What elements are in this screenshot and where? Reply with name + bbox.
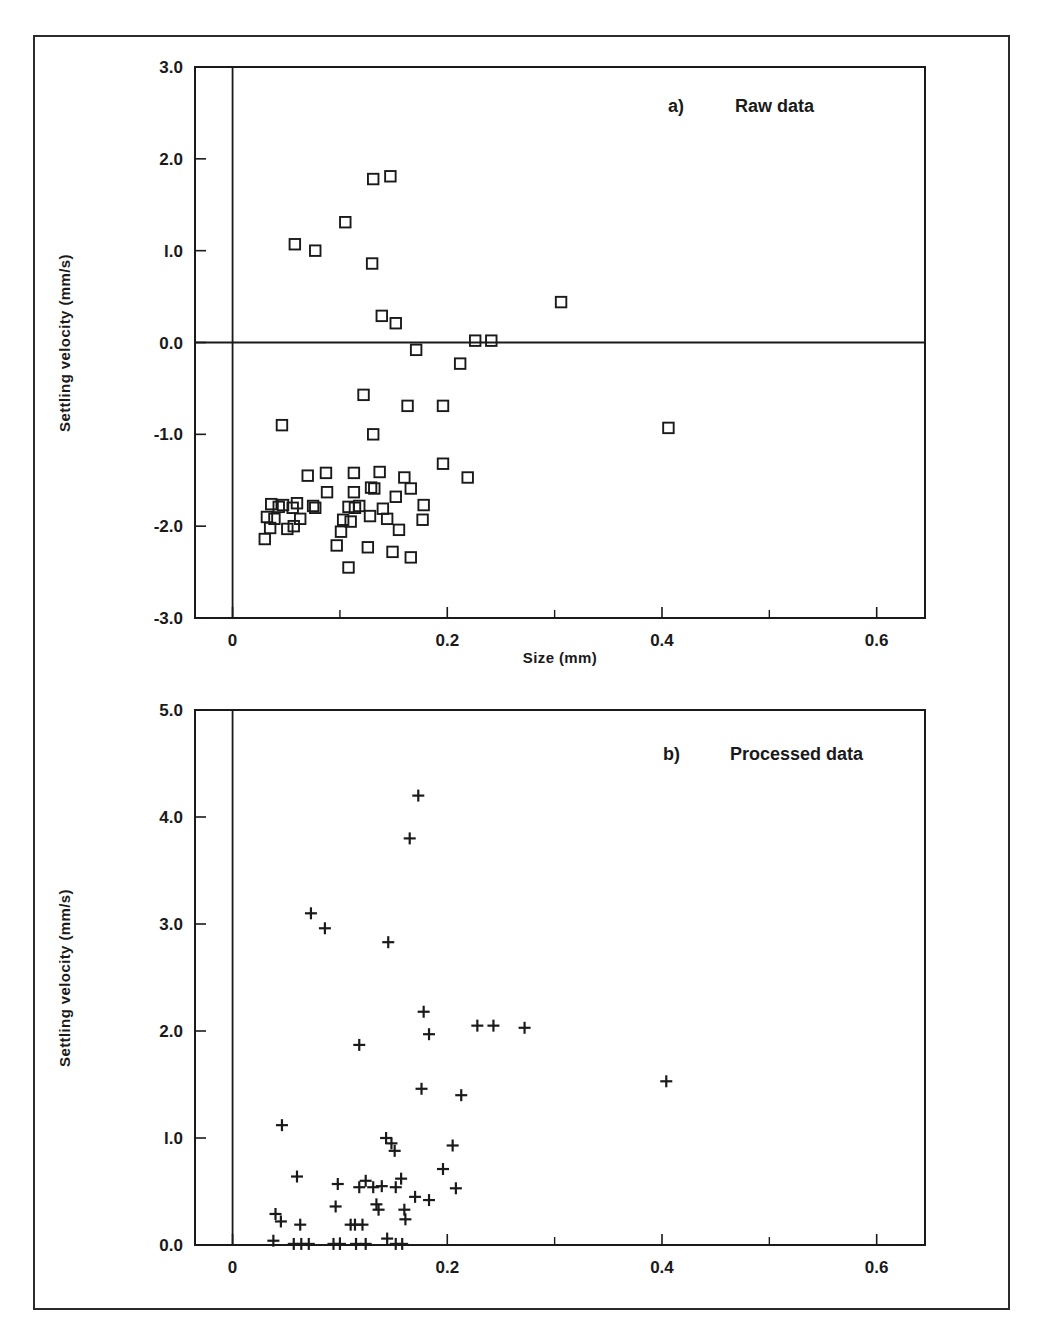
y-ticklabel-a-6: 3.0 bbox=[159, 58, 183, 77]
data-point bbox=[368, 174, 379, 185]
y-axis-label-a: Settling velocity (mm/s) bbox=[56, 254, 73, 432]
x-ticklabel-a-2: 0.4 bbox=[650, 631, 674, 650]
y-ticklabel-a-4: l.0 bbox=[164, 242, 183, 261]
data-point bbox=[462, 472, 473, 483]
data-point bbox=[358, 390, 369, 401]
data-point bbox=[336, 526, 347, 537]
data-series-b bbox=[267, 790, 672, 1250]
data-point bbox=[377, 311, 388, 322]
data-point bbox=[275, 1215, 287, 1227]
y-ticklabel-b-2: 2.0 bbox=[159, 1022, 183, 1041]
y-ticklabel-b-1: l.0 bbox=[164, 1129, 183, 1148]
data-point bbox=[416, 1083, 428, 1095]
data-point bbox=[277, 420, 288, 431]
panel-a-raw-data: -3.0-2.0-1.00.0l.02.03.000.20.40.6a)Raw … bbox=[0, 0, 1039, 700]
data-point bbox=[349, 468, 360, 479]
data-point bbox=[294, 1219, 306, 1231]
data-point bbox=[394, 525, 405, 536]
data-point bbox=[406, 552, 417, 563]
panel-tag-b: b) bbox=[663, 744, 680, 764]
data-point bbox=[349, 487, 360, 498]
data-point bbox=[373, 1204, 385, 1216]
data-point bbox=[450, 1182, 462, 1194]
data-point bbox=[330, 1200, 342, 1212]
data-point bbox=[395, 1173, 407, 1185]
data-point bbox=[282, 524, 293, 535]
data-point bbox=[290, 239, 301, 250]
data-point bbox=[266, 499, 277, 510]
data-point bbox=[418, 500, 429, 511]
data-point bbox=[391, 318, 402, 329]
data-point bbox=[289, 521, 300, 532]
panel-b-processed-data: 0.0l.02.03.04.05.000.20.40.6b)Processed … bbox=[0, 660, 1039, 1334]
y-ticklabel-b-0: 0.0 bbox=[159, 1236, 183, 1255]
y-ticklabel-b-3: 3.0 bbox=[159, 915, 183, 934]
data-point bbox=[411, 345, 422, 356]
data-point bbox=[447, 1139, 459, 1151]
data-point bbox=[412, 790, 424, 802]
y-axis-label-b: Settling velocity (mm/s) bbox=[56, 889, 73, 1067]
data-point bbox=[556, 297, 567, 308]
y-ticklabel-a-5: 2.0 bbox=[159, 150, 183, 169]
data-point bbox=[382, 936, 394, 948]
data-point bbox=[663, 423, 674, 434]
data-point bbox=[260, 534, 271, 545]
panel-b-svg: 0.0l.02.03.04.05.000.20.40.6b)Processed … bbox=[0, 660, 1039, 1334]
data-point bbox=[417, 514, 428, 525]
data-point bbox=[353, 1039, 365, 1051]
data-point bbox=[438, 401, 449, 412]
data-point bbox=[370, 1198, 382, 1210]
x-ticklabel-b-1: 0.2 bbox=[435, 1258, 459, 1277]
data-point bbox=[519, 1022, 531, 1034]
data-point bbox=[470, 335, 481, 346]
data-point bbox=[374, 467, 385, 478]
data-point bbox=[302, 470, 313, 481]
y-ticklabel-a-1: -2.0 bbox=[154, 517, 183, 536]
data-series-a bbox=[260, 171, 674, 573]
data-point bbox=[270, 1208, 282, 1220]
panel-title-b: Processed data bbox=[730, 744, 864, 764]
x-ticklabel-b-2: 0.4 bbox=[650, 1258, 674, 1277]
data-point bbox=[365, 511, 376, 522]
y-ticklabel-a-2: -1.0 bbox=[154, 425, 183, 444]
data-point bbox=[332, 1178, 344, 1190]
data-point bbox=[390, 1181, 402, 1193]
data-point bbox=[471, 1020, 483, 1032]
data-point bbox=[404, 832, 416, 844]
data-point bbox=[305, 907, 317, 919]
y-ticklabel-b-5: 5.0 bbox=[159, 701, 183, 720]
data-point bbox=[322, 487, 333, 498]
panel-title-a: Raw data bbox=[735, 96, 815, 116]
panel-tag-a: a) bbox=[668, 96, 684, 116]
data-point bbox=[385, 171, 396, 182]
data-point bbox=[387, 547, 398, 558]
data-point bbox=[455, 358, 466, 369]
data-point bbox=[438, 458, 449, 469]
data-point bbox=[291, 1171, 303, 1183]
data-point bbox=[360, 1238, 372, 1250]
x-ticklabel-a-1: 0.2 bbox=[435, 631, 459, 650]
data-point bbox=[319, 922, 331, 934]
data-point bbox=[423, 1194, 435, 1206]
data-point bbox=[343, 562, 354, 573]
data-point bbox=[321, 468, 332, 479]
data-point bbox=[380, 1132, 392, 1144]
data-point bbox=[455, 1089, 467, 1101]
data-point bbox=[376, 1180, 388, 1192]
figure-root: -3.0-2.0-1.00.0l.02.03.000.20.40.6a)Raw … bbox=[0, 0, 1039, 1334]
data-point bbox=[423, 1028, 435, 1040]
data-point bbox=[295, 514, 306, 525]
x-ticklabel-a-3: 0.6 bbox=[865, 631, 889, 650]
x-ticklabel-b-0: 0 bbox=[228, 1258, 237, 1277]
data-point bbox=[409, 1191, 421, 1203]
data-point bbox=[382, 514, 393, 525]
data-point bbox=[334, 1238, 346, 1250]
data-point bbox=[487, 1020, 499, 1032]
data-point bbox=[368, 429, 379, 440]
data-point bbox=[418, 1006, 430, 1018]
data-point bbox=[340, 217, 351, 228]
data-point bbox=[437, 1163, 449, 1175]
data-point bbox=[367, 258, 378, 269]
data-point bbox=[378, 503, 389, 513]
data-point bbox=[303, 1238, 315, 1250]
